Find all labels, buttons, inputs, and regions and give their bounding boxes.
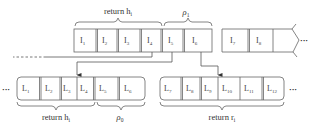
connector-I4 [46,52,152,57]
ellipsis-top-right: ··· [300,36,308,45]
brace-return-h-bottom [17,102,95,110]
cell-L2: L2 [45,84,53,94]
ellipsis-bottom-right: ··· [289,85,297,94]
label-return-r: return ri [209,112,236,123]
cell-I2: I2 [102,36,108,46]
cell-L11: L11 [244,84,254,94]
cell-I3: I3 [124,36,130,46]
cell-L3: L3 [63,84,71,94]
brace-rho1 [164,18,212,26]
cell-I4: I4 [147,36,153,46]
cell-L4: L4 [80,84,88,94]
connectors [13,52,218,75]
label-rho0: ρ0 [116,112,124,123]
brace-return-r [160,102,284,110]
diagram-canvas: I1 I2 I3 I4 I5 I6 return hi ρ1 I7 I8 ···… [0,0,311,124]
connector-I6 [201,52,218,75]
cell-L9: L9 [204,84,212,94]
cell-L12: L12 [267,84,277,94]
label-return-h-top: return hi [104,6,133,17]
cell-L5: L5 [99,84,107,94]
cell-I5: I5 [168,36,174,46]
connector-I5 [77,52,172,75]
cell-L1: L1 [22,84,30,94]
label-return-h-bottom: return hi [42,112,71,123]
brace-rho0 [97,102,145,110]
cell-I1: I1 [80,36,86,46]
ellipsis-bottom-left: ··· [2,85,10,94]
cell-I8: I8 [256,36,262,46]
cell-I7: I7 [230,36,236,46]
cell-I6: I6 [192,36,198,46]
brace-return-h-top [75,18,162,26]
cell-L7: L7 [164,84,172,94]
cell-L10: L10 [222,84,232,94]
cell-L8: L8 [186,84,194,94]
cell-L6: L6 [124,84,132,94]
label-rho1: ρ1 [182,7,190,18]
